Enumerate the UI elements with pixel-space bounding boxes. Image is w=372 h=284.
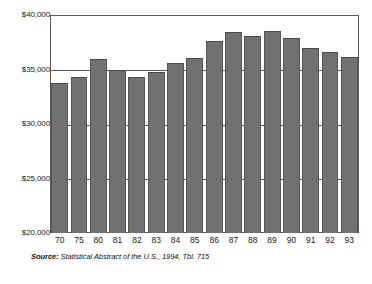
- x-tick-label: 83: [147, 235, 166, 245]
- bar: [302, 48, 319, 233]
- bar: [148, 72, 165, 233]
- y-tick-label: $35,000: [4, 66, 50, 74]
- bar: [109, 70, 126, 234]
- bar: [225, 32, 242, 233]
- bar: [244, 36, 261, 233]
- x-tick-label: 90: [282, 235, 301, 245]
- bar: [283, 38, 300, 233]
- bar: [206, 41, 223, 233]
- bar: [128, 77, 145, 233]
- x-tick-label: 75: [69, 235, 88, 245]
- bar: [322, 52, 339, 233]
- bar: [51, 83, 68, 233]
- y-tick-label: $30,000: [4, 120, 50, 128]
- y-tick-label: $40,000: [4, 11, 50, 19]
- x-tick-label: 87: [224, 235, 243, 245]
- bar: [341, 57, 358, 233]
- bar-chart-figure: $20,000$25,000$30,000$35,000$40,000 7075…: [0, 0, 372, 284]
- x-tick-label: 86: [205, 235, 224, 245]
- y-axis: $20,000$25,000$30,000$35,000$40,000: [0, 0, 50, 284]
- bar: [71, 77, 88, 233]
- y-tick-label: $25,000: [4, 175, 50, 183]
- bar: [90, 59, 107, 233]
- x-tick-label: 70: [50, 235, 69, 245]
- bar: [186, 58, 203, 233]
- x-tick-label: 88: [243, 235, 262, 245]
- y-tick-label: $20,000: [4, 229, 50, 237]
- x-tick-label: 84: [166, 235, 185, 245]
- source-note: Source:Statistical Abstract of the U.S.,…: [31, 252, 209, 261]
- x-tick-label: 82: [127, 235, 146, 245]
- bars-layer: [50, 15, 359, 233]
- bar: [167, 63, 184, 233]
- x-tick-label: 85: [185, 235, 204, 245]
- source-text: Statistical Abstract of the U.S., 1994, …: [61, 252, 210, 261]
- source-label: Source:: [31, 252, 59, 261]
- x-axis: 70758081828384858687888990919293: [50, 235, 359, 249]
- bar: [264, 31, 281, 233]
- x-tick-label: 81: [108, 235, 127, 245]
- x-tick-label: 93: [340, 235, 359, 245]
- x-tick-label: 89: [262, 235, 281, 245]
- x-tick-label: 91: [301, 235, 320, 245]
- x-tick-label: 80: [89, 235, 108, 245]
- x-tick-label: 92: [320, 235, 339, 245]
